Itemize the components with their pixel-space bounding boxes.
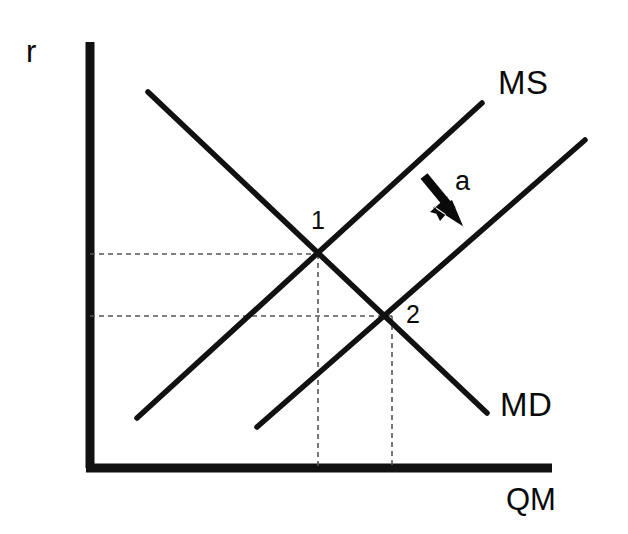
money-supply-curve-initial: [137, 103, 482, 418]
money-supply-label: MS: [498, 66, 549, 99]
money-demand-label: MD: [500, 388, 552, 421]
diagram-canvas: r QM MS MD 1 2 a: [0, 0, 628, 534]
equilibrium-label-2: 2: [406, 302, 420, 327]
equilibrium-label-1: 1: [311, 208, 325, 233]
shift-annotation-label: a: [455, 168, 470, 195]
y-axis-label: r: [26, 36, 36, 67]
money-supply-curve-shifted: [257, 140, 585, 427]
x-axis-label: QM: [506, 484, 556, 515]
